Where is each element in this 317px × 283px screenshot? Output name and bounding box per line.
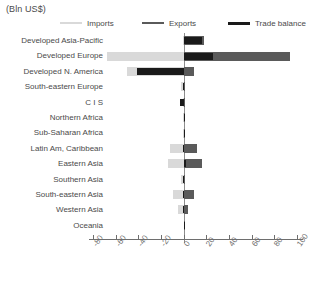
bar-balance [184, 53, 213, 60]
bar-imports [107, 52, 184, 61]
bar-row [0, 172, 317, 187]
axis-tick-label: 0 [182, 240, 192, 249]
bar-row [0, 95, 317, 110]
bar-balance [184, 160, 186, 167]
axis-tick-label: 20 [204, 236, 216, 248]
bar-row [0, 64, 317, 79]
bar-balance [184, 37, 202, 44]
bar-balance [137, 68, 183, 75]
bar-exports [184, 159, 202, 168]
bar-exports [184, 205, 189, 214]
plot-area: Developed Asia-PacificDeveloped EuropeDe… [0, 0, 317, 283]
bar-balance [184, 114, 185, 121]
bar-exports [184, 67, 194, 76]
axis-tick-label: 80 [272, 236, 284, 248]
bar-balance [183, 206, 184, 213]
bar-balance [183, 191, 184, 198]
bar-balance [183, 83, 184, 90]
bar-row [0, 141, 317, 156]
bar-balance [183, 176, 184, 183]
bar-exports [184, 98, 185, 107]
bar-row [0, 187, 317, 202]
bar-row [0, 218, 317, 233]
chart-container: (Bln US$) Imports Exports Trade balance … [0, 0, 317, 283]
bar-series-area [0, 33, 317, 233]
bar-row [0, 110, 317, 125]
bar-row [0, 33, 317, 48]
bar-exports [184, 190, 194, 199]
bar-balance [184, 222, 185, 229]
bar-balance [183, 145, 184, 152]
bar-row [0, 156, 317, 171]
bar-balance [184, 130, 185, 137]
bar-balance [180, 99, 183, 106]
bar-row [0, 48, 317, 63]
bar-row [0, 202, 317, 217]
bar-row [0, 79, 317, 94]
bar-imports [168, 159, 184, 168]
bar-row [0, 125, 317, 140]
bar-exports [184, 144, 198, 153]
